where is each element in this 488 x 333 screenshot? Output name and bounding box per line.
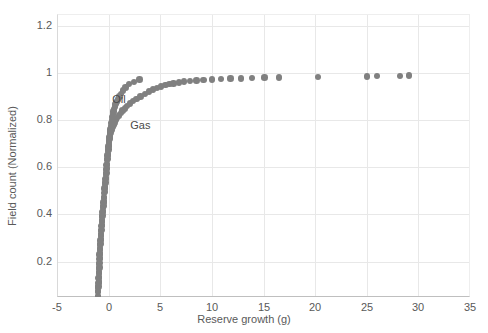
y-axis-tick-label: 0.8: [37, 114, 52, 125]
data-point-marker: [397, 73, 403, 79]
data-marker-layer: [57, 14, 470, 297]
series-annotation-oil: Oil: [112, 93, 125, 105]
x-axis-tick-label: 10: [206, 302, 218, 313]
data-point-marker: [249, 75, 255, 81]
data-point-marker: [200, 77, 206, 83]
data-point-marker: [209, 76, 215, 82]
y-axis-tick-label: 1: [46, 67, 52, 78]
x-axis-tick-label: 5: [157, 302, 163, 313]
x-axis-title: Reserve growth (g): [0, 313, 488, 325]
data-point-marker: [374, 73, 380, 79]
data-point-marker: [136, 76, 142, 82]
data-point-marker: [261, 74, 267, 80]
data-point-marker: [218, 76, 224, 82]
x-axis-tick-label: 0: [106, 302, 112, 313]
data-point-marker: [364, 73, 370, 79]
x-axis-tick-label: -5: [52, 302, 62, 313]
x-axis-tick-label: 20: [309, 302, 321, 313]
x-axis-tick-label: 35: [464, 302, 476, 313]
plot-area: OilGas: [57, 14, 470, 297]
y-axis-tick-label: 1.2: [37, 20, 52, 31]
y-axis-title: Field count (Normalized): [6, 76, 18, 256]
chart-figure: 0.20.40.60.811.2 Field count (Normalized…: [0, 0, 488, 333]
data-point-marker: [238, 75, 244, 81]
x-axis-tick-label: 15: [258, 302, 270, 313]
data-point-marker: [406, 72, 412, 78]
data-point-marker: [315, 74, 321, 80]
y-axis-tick-label: 0.4: [37, 208, 52, 219]
y-axis-tick-label: 0.2: [37, 256, 52, 267]
x-axis-tick-label: 25: [361, 302, 373, 313]
data-point-marker: [276, 74, 282, 80]
series-annotation-gas: Gas: [130, 119, 150, 131]
data-point-marker: [227, 75, 233, 81]
x-axis-tick-label: 30: [412, 302, 424, 313]
data-point-marker: [193, 77, 199, 83]
y-axis-tick-label: 0.6: [37, 161, 52, 172]
